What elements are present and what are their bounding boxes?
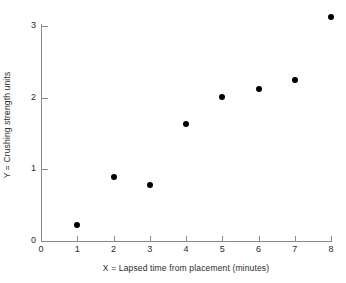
scatter-chart-figure: 012345678 0123 X = Lapsed time from plac… — [0, 0, 346, 283]
x-tick-label: 6 — [244, 244, 274, 255]
data-point — [256, 86, 262, 92]
x-tick-label: 5 — [207, 244, 237, 255]
data-point — [74, 222, 80, 228]
x-axis-title: X = Lapsed time from placement (minutes) — [41, 263, 331, 274]
x-tick-mark — [77, 236, 78, 242]
x-tick-mark — [150, 236, 151, 242]
data-point — [111, 174, 117, 180]
y-tick-label: 3 — [22, 20, 36, 31]
x-tick-mark — [41, 236, 42, 242]
x-tick-label: 1 — [62, 244, 92, 255]
y-tick-mark — [42, 98, 48, 99]
data-point — [292, 77, 298, 83]
x-tick-mark — [222, 236, 223, 242]
x-tick-label: 4 — [171, 244, 201, 255]
data-point — [219, 94, 225, 100]
data-point — [147, 182, 153, 188]
x-tick-mark — [295, 236, 296, 242]
y-tick-label: 1 — [22, 163, 36, 174]
x-tick-mark — [186, 236, 187, 242]
y-tick-mark — [42, 26, 48, 27]
y-tick-label: 2 — [22, 92, 36, 103]
x-tick-label: 7 — [280, 244, 310, 255]
y-tick-mark — [42, 169, 48, 170]
x-tick-mark — [259, 236, 260, 242]
y-tick-label: 0 — [22, 235, 36, 246]
data-point — [328, 14, 334, 20]
data-point — [183, 121, 189, 127]
x-tick-label: 3 — [135, 244, 165, 255]
x-tick-label: 2 — [99, 244, 129, 255]
y-axis-title: Y = Crushing strength units — [0, 55, 14, 195]
x-tick-mark — [114, 236, 115, 242]
x-tick-label: 8 — [316, 244, 346, 255]
y-axis-line — [41, 24, 42, 242]
x-tick-mark — [331, 236, 332, 242]
